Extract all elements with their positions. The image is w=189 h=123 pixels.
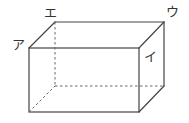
vertex-label-i: イ bbox=[144, 50, 157, 63]
edge-top-right-diagonal bbox=[139, 22, 164, 48]
vertex-label-a: ア bbox=[12, 38, 25, 51]
vertex-label-u: ウ bbox=[166, 5, 179, 18]
vertex-label-e: エ bbox=[44, 6, 57, 19]
hidden-edge-bottom-left-diagonal bbox=[29, 86, 55, 112]
rectangular-prism-diagram bbox=[0, 0, 189, 123]
edge-top-left-diagonal bbox=[29, 22, 55, 48]
edge-bottom-right-diagonal bbox=[139, 86, 164, 112]
front-face bbox=[29, 48, 139, 112]
